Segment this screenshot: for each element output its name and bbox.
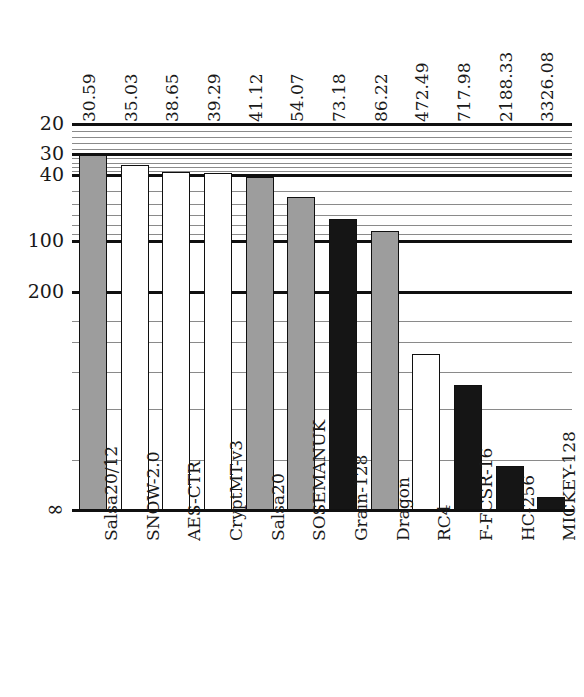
value-label-sosemanuk: 54.07 [288,104,306,122]
y-tick-label-30: 30 [40,144,64,163]
bar-chart: 30.5935.0338.6539.2941.1254.0773.1886.22… [0,0,584,697]
bar-aes-ctr [162,172,190,510]
x-tick-label-dragon: Dragon [394,521,413,541]
x-tick-label-hc-256: HC-256 [519,521,538,541]
bar-rc4 [412,354,440,510]
x-tick-label-mickey-128: MICKEY-128 [560,521,579,541]
x-tick-label-cryptmt-v3: CryptMT-v3 [227,521,246,541]
value-label-salsa20-12: 30.59 [80,104,98,122]
x-tick-label-salsa20: Salsa20 [269,521,288,541]
value-label-mickey-128: 3326.08 [538,104,556,122]
y-tick-label-40: 40 [40,165,64,184]
value-label-snow-2-0: 35.03 [122,104,140,122]
value-label-cryptmt-v3: 39.29 [205,104,223,122]
x-tick-label-sosemanuk: SOSEMANUK [310,521,329,541]
value-label-group: 30.5935.0338.6539.2941.1254.0773.1886.22… [0,0,584,124]
value-label-hc-256: 2188.33 [497,104,515,122]
x-tick-label-snow-2-0: SNOW-2.0 [144,521,163,541]
value-label-grain-128: 73.18 [330,104,348,122]
value-label-salsa20: 41.12 [247,104,265,122]
x-axis-labels: Salsa20/12SNOW-2.0AES-CTRCryptMT-v3Salsa… [0,515,584,697]
bar-dragon [371,231,399,511]
x-tick-label-f-fcsr-16: F-FCSR-16 [477,521,496,541]
x-tick-label-salsa20-12: Salsa20/12 [102,521,121,541]
value-label-aes-ctr: 38.65 [163,104,181,122]
value-label-f-fcsr-16: 717.98 [455,104,473,122]
x-tick-label-aes-ctr: AES-CTR [185,521,204,541]
x-tick-label-rc4: RC4 [435,521,454,541]
value-label-dragon: 86.22 [372,104,390,122]
y-tick-label-20: 20 [40,114,64,133]
y-tick-label-100: 100 [28,231,64,250]
x-tick-label-grain-128: Grain-128 [352,521,371,541]
bar-salsa20 [246,177,274,511]
value-label-rc4: 472.49 [413,104,431,122]
y-tick-label-200: 200 [28,282,64,301]
